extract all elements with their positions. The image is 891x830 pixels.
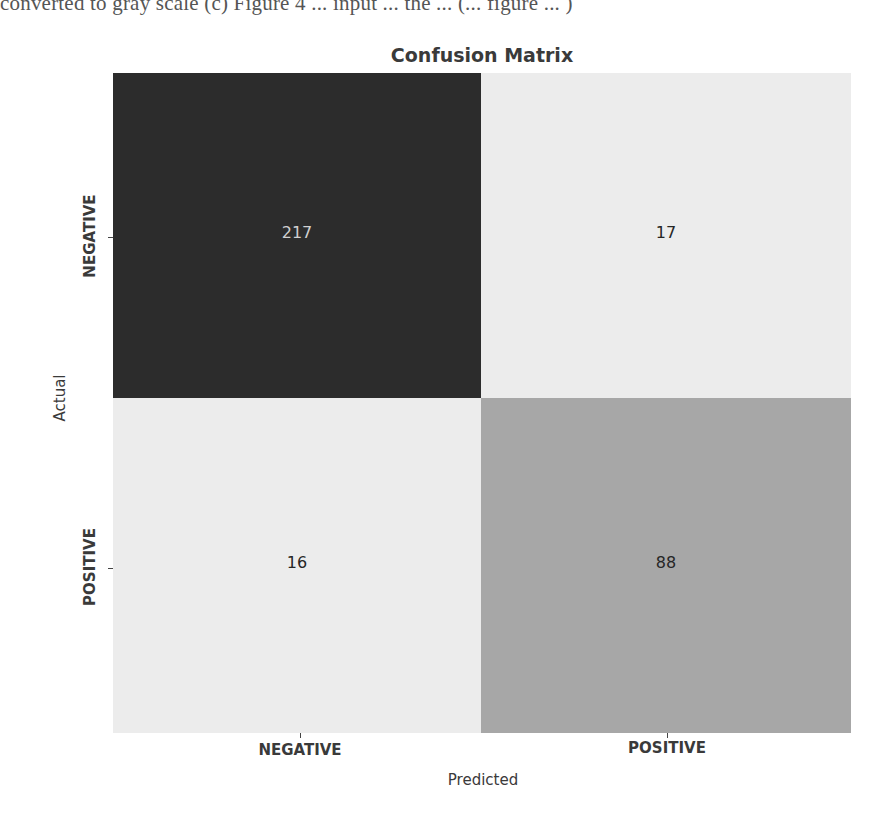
x-tick-mark [300,733,301,738]
cell-positive-negative: 16 [113,398,481,733]
cell-positive-positive: 88 [481,398,851,733]
cell-value: 88 [656,553,676,572]
y-tick-mark [108,568,113,569]
y-axis-label: Actual [51,358,69,438]
x-tick-label-negative: NEGATIVE [220,741,380,759]
cell-value: 17 [656,223,676,242]
y-tick-label-negative: NEGATIVE [81,176,99,296]
confusion-matrix: 217 17 16 88 [113,73,851,733]
figure-caption-fragment: converted to gray scale (c) Figure 4 ...… [0,0,891,16]
cell-negative-negative: 217 [113,73,481,398]
x-axis-label: Predicted [423,771,543,789]
cell-value: 217 [282,223,313,242]
cell-negative-positive: 17 [481,73,851,398]
chart-title: Confusion Matrix [313,44,651,66]
x-tick-label-positive: POSITIVE [587,739,747,757]
y-tick-label-positive: POSITIVE [81,507,99,627]
x-tick-mark [667,733,668,738]
cell-value: 16 [287,553,307,572]
y-tick-mark [108,237,113,238]
